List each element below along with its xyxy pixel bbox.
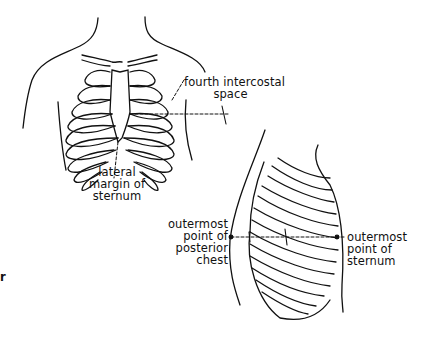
lateral-ribs bbox=[249, 158, 338, 319]
stray-mark: r bbox=[0, 271, 6, 283]
label-line: sternum bbox=[88, 190, 146, 202]
fourth-intercostal-label: fourth intercostal space bbox=[184, 76, 285, 100]
posterior-chest-label: outermost point of posterior chest bbox=[160, 218, 228, 266]
label-line: sternum bbox=[347, 255, 407, 267]
label-line: chest bbox=[160, 254, 228, 266]
sternum bbox=[110, 70, 130, 142]
label-line: space bbox=[176, 88, 285, 100]
lateral-torso-outline bbox=[230, 130, 343, 312]
lateral-margin-label: lateral margin of sternum bbox=[88, 166, 146, 202]
chest-diagram bbox=[0, 0, 424, 343]
sternum-point-label: outermost point of sternum bbox=[347, 231, 407, 267]
